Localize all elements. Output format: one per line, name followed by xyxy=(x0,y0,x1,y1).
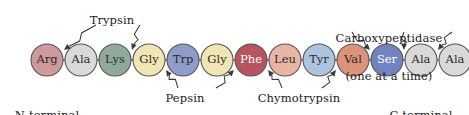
pepsin-label: Pepsin xyxy=(140,92,230,105)
residue-circle xyxy=(269,44,301,76)
arrow-shaft xyxy=(134,25,140,44)
residue-circle xyxy=(201,44,233,76)
trypsin-arrow-right xyxy=(131,25,140,50)
arrow-shaft xyxy=(169,75,178,88)
carboxypeptidase-label-line2: (one at a time) xyxy=(314,70,464,83)
arrow-shaft xyxy=(272,75,282,88)
carboxypeptidase-label-line1: Carboxypeptidase xyxy=(314,32,464,45)
residue-circle xyxy=(235,44,267,76)
residue-circle xyxy=(31,44,63,76)
peptide-chain-diagram: ArgAlaLysGlyTrpGlyPheLeuTyrValSerAlaAla … xyxy=(0,0,469,115)
residue-circle xyxy=(133,44,165,76)
arrow-head xyxy=(131,43,137,50)
c-terminal-label-line1: C-terminal xyxy=(366,109,469,115)
c-terminal-label: C-terminal end xyxy=(366,83,469,115)
residue-circle xyxy=(65,44,97,76)
chymotrypsin-label: Chymotrypsin xyxy=(234,92,364,105)
residue-circle xyxy=(167,44,199,76)
residue-circle xyxy=(99,44,131,76)
n-terminal-label: N-terminal end xyxy=(0,83,102,115)
arrow-shaft xyxy=(69,25,96,46)
n-terminal-label-line1: N-terminal xyxy=(0,109,102,115)
trypsin-label: Trypsin xyxy=(67,14,157,27)
